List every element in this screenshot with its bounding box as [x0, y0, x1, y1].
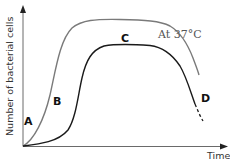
curve-growth	[23, 45, 195, 146]
label-phase-c: C	[121, 32, 129, 45]
label-phase-d: D	[201, 92, 210, 105]
y-axis-arrow-icon	[20, 5, 26, 13]
y-axis-label: Number of bacterial cells	[4, 17, 15, 136]
x-axis-arrow-icon	[220, 144, 228, 150]
label-phase-a: A	[24, 115, 33, 128]
label-phase-b: B	[53, 95, 61, 108]
bacterial-growth-chart: A B C D At 37°C Time Number of bacterial…	[0, 0, 230, 162]
x-axis-label: Time	[206, 150, 230, 161]
label-temperature: At 37°C	[157, 28, 202, 41]
curve-death-phase	[195, 104, 203, 121]
